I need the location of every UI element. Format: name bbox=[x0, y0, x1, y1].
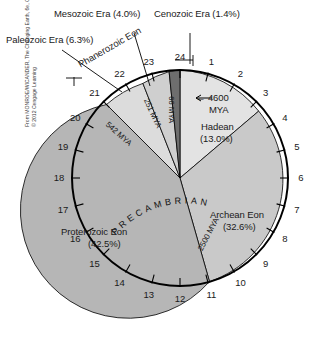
hour-label-12: 12 bbox=[175, 293, 186, 304]
hadean-percent: (13.0%) bbox=[200, 133, 233, 144]
hour-label-4: 4 bbox=[282, 112, 287, 123]
hadean-label: Hadean bbox=[201, 121, 234, 132]
proterozoic-label: Proterozoic Eon bbox=[61, 226, 127, 237]
hour-label-21: 21 bbox=[89, 87, 100, 98]
hour-label-13: 13 bbox=[143, 289, 154, 300]
hour-label-22: 22 bbox=[114, 68, 125, 79]
hour-label-10: 10 bbox=[235, 277, 246, 288]
hour-label-9: 9 bbox=[263, 258, 268, 269]
callout-paleozoic: Paleozoic Era (6.3%) bbox=[6, 34, 93, 45]
hour-label-20: 20 bbox=[70, 112, 81, 123]
geologic-time-pie-figure: 123456789101112131415161718192021222324 … bbox=[0, 0, 331, 351]
boundary-66mya: 66 MYA bbox=[167, 96, 176, 123]
callout-mesozoic: Mesozoic Era (4.0%) bbox=[54, 8, 140, 19]
hour-label-14: 14 bbox=[114, 277, 125, 288]
proterozoic-percent: (42.5%) bbox=[88, 238, 121, 249]
hour-label-8: 8 bbox=[282, 233, 287, 244]
hour-label-5: 5 bbox=[294, 141, 299, 152]
hour-label-15: 15 bbox=[89, 258, 100, 269]
hour-label-11: 11 bbox=[206, 289, 216, 300]
hour-label-1: 1 bbox=[209, 56, 214, 67]
hour-label-23: 23 bbox=[143, 56, 154, 67]
hour-label-6: 6 bbox=[298, 172, 303, 183]
hour-label-24: 24 bbox=[175, 51, 186, 62]
hour-label-18: 18 bbox=[54, 172, 65, 183]
hour-label-2: 2 bbox=[238, 68, 243, 79]
archean-percent: (32.6%) bbox=[223, 221, 256, 232]
hour-label-3: 3 bbox=[263, 87, 268, 98]
hour-label-7: 7 bbox=[294, 204, 299, 215]
hour-label-19: 19 bbox=[58, 141, 69, 152]
origin-unit-label: MYA bbox=[209, 104, 229, 115]
origin-arrow-label: ← 4600 bbox=[196, 92, 229, 103]
source-credit: From MONROE/WICANDER, The Changing Earth… bbox=[24, 0, 38, 127]
callout-cenozoic: Cenozoic Era (1.4%) bbox=[154, 8, 240, 19]
hour-label-17: 17 bbox=[58, 204, 69, 215]
archean-label: Archean Eon bbox=[210, 209, 264, 220]
